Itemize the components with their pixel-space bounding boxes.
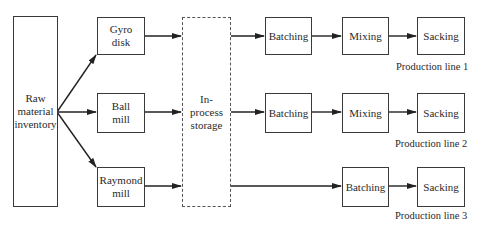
node-label: Sacking [423,107,458,120]
node-label: process [190,106,223,119]
line1-sacking-node: Sacking [417,17,465,55]
node-label: Ball [112,100,130,113]
line2-sacking-node: Sacking [417,93,465,133]
line1-batching-node: Batching [265,17,312,55]
node-label: Mixing [349,30,381,43]
line2-mixing-node: Mixing [342,93,389,133]
node-label: In- [200,93,213,106]
raymond-mill-node: Raymond mill [97,167,145,207]
line2-batching-node: Batching [265,93,312,133]
in-process-storage-node: In- process storage [182,17,231,207]
line3-sacking-node: Sacking [417,167,465,207]
node-label: mill [112,113,130,126]
node-label: Batching [346,181,386,194]
node-label: inventory [14,118,56,131]
production-line-2-label: Production line 2 [395,138,467,149]
node-label: storage [191,119,223,132]
node-label: Batching [269,30,309,43]
node-label: Mixing [349,107,381,120]
node-label: Gyro [110,23,133,36]
production-line-3-label: Production line 3 [395,210,467,221]
node-label: Sacking [423,30,458,43]
connector-arrows [0,0,478,226]
node-label: Raymond [100,174,143,187]
line1-mixing-node: Mixing [342,17,389,55]
node-label: mill [112,187,130,200]
raw-material-inventory-node: Raw material inventory [13,16,58,207]
node-label: Raw [25,92,45,105]
node-label: disk [112,36,130,49]
node-label: Sacking [423,181,458,194]
node-label: material [17,105,53,118]
ball-mill-node: Ball mill [97,93,145,133]
gyro-disk-node: Gyro disk [97,17,145,55]
line3-batching-node: Batching [342,167,389,207]
production-line-1-label: Production line 1 [396,61,468,72]
node-label: Batching [269,107,309,120]
